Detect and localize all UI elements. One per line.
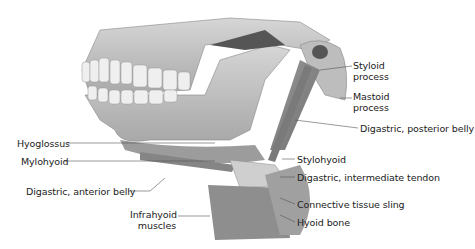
label-digastric-posterior-belly: Digastric, posterior belly bbox=[360, 123, 474, 134]
stylohyoid-muscle bbox=[268, 65, 312, 162]
label-connective-tissue-sling: Connective tissue sling bbox=[297, 199, 405, 210]
label-hyoid-bone: Hyoid bone bbox=[297, 217, 350, 228]
label-line: process bbox=[353, 102, 389, 113]
label-styloid-process: Styloid process bbox=[353, 60, 389, 82]
label-line: muscles bbox=[130, 220, 176, 231]
label-line: Infrahyoid bbox=[130, 209, 176, 220]
label-stylohyoid: Stylohyoid bbox=[297, 154, 346, 165]
label-line: process bbox=[353, 71, 389, 82]
label-digastric-intermediate-tendon: Digastric, intermediate tendon bbox=[297, 172, 440, 183]
label-mylohyoid: Mylohyoid bbox=[21, 156, 69, 167]
label-line: Styloid bbox=[353, 60, 389, 71]
label-infrahyoid-muscles: Infrahyoid muscles bbox=[130, 209, 176, 231]
label-mastoid-process: Mastoid process bbox=[353, 91, 389, 113]
label-line: Mastoid bbox=[353, 91, 389, 102]
label-digastric-anterior-belly: Digastric, anterior belly bbox=[26, 186, 135, 197]
label-hyoglossus: Hyoglossus bbox=[17, 138, 70, 149]
anatomy-figure: Styloid process Mastoid process Digastri… bbox=[0, 0, 475, 249]
